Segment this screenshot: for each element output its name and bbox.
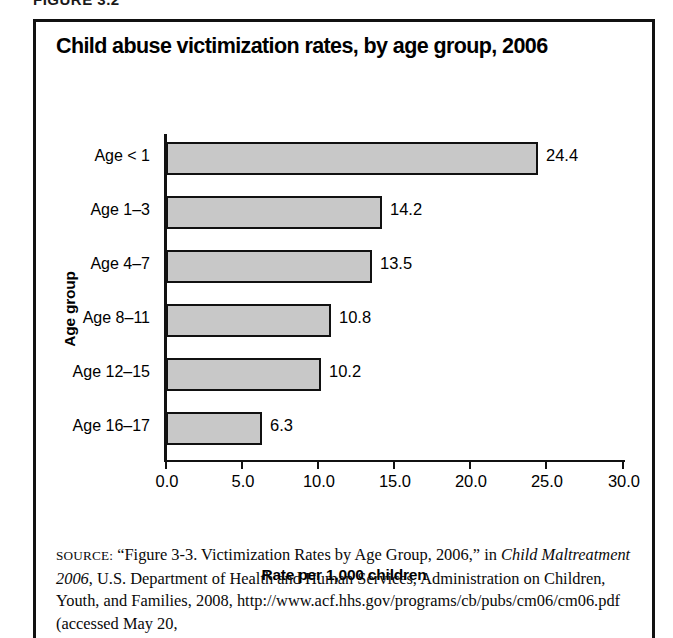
source-text-part1: “Figure 3-3. Victimization Rates by Age …: [113, 545, 501, 564]
bar-value-label: 10.8: [339, 308, 371, 327]
category-label: Age 12–15: [20, 363, 150, 381]
bar-value-label: 14.2: [390, 200, 422, 219]
category-label: Age 4–7: [20, 255, 150, 273]
category-label: Age 8–11: [20, 309, 150, 327]
x-axis-tick: [545, 460, 547, 469]
bar-value-label: 6.3: [270, 416, 293, 435]
category-label: Age 16–17: [20, 417, 150, 435]
bar: [166, 196, 382, 229]
x-axis-tick-label: 30.0: [594, 472, 654, 491]
x-axis-tick-label: 25.0: [517, 472, 577, 491]
bar: [166, 142, 538, 175]
x-axis-tick: [241, 460, 243, 469]
bar: [166, 412, 262, 445]
x-axis-tick: [393, 460, 395, 469]
source-label: SOURCE:: [56, 548, 113, 563]
category-label: Age 1–3: [20, 201, 150, 219]
x-axis-tick: [317, 460, 319, 469]
x-axis-tick: [165, 460, 167, 469]
figure-caption: FIGURE 3.2: [33, 0, 120, 5]
bar: [166, 250, 372, 283]
source-note: SOURCE: “Figure 3-3. Victimization Rates…: [56, 544, 641, 635]
source-text-part2: , U.S. Department of Health and Human Se…: [56, 569, 620, 633]
x-axis-tick: [469, 460, 471, 469]
bar-value-label: 24.4: [546, 146, 578, 165]
x-axis-tick-label: 20.0: [441, 472, 501, 491]
bar-value-label: 10.2: [329, 362, 361, 381]
x-axis-tick: [622, 460, 624, 469]
chart-title: Child abuse victimization rates, by age …: [56, 34, 548, 59]
x-axis-tick-label: 10.0: [289, 472, 349, 491]
x-axis-tick-label: 15.0: [365, 472, 425, 491]
figure-box: Child abuse victimization rates, by age …: [33, 19, 655, 638]
bar: [166, 304, 331, 337]
bar-value-label: 13.5: [380, 254, 412, 273]
bar-chart: Age group Age < 1 24.4 Age 1–3 14.2 Age …: [36, 78, 652, 528]
x-axis-tick-label: 0.0: [137, 472, 197, 491]
bar: [166, 358, 321, 391]
plot-inner: Age < 1 24.4 Age 1–3 14.2 Age 4–7 13.5 A…: [166, 134, 623, 460]
category-label: Age < 1: [20, 147, 150, 165]
x-axis-tick-label: 5.0: [213, 472, 273, 491]
